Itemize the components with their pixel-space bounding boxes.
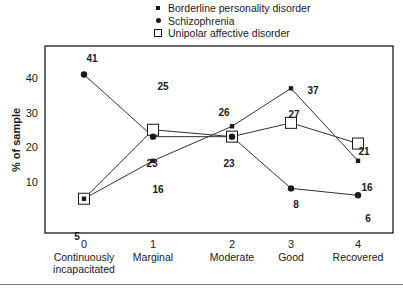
filled-circle-marker-icon: [150, 133, 156, 139]
filled-square-marker-icon: [356, 159, 360, 163]
x-category-label: incapacitated: [53, 263, 115, 275]
data-label: 5: [74, 231, 80, 242]
x-category-label: Good: [278, 251, 304, 263]
y-tick-label: 40: [26, 72, 38, 84]
x-category-label: Recovered: [333, 251, 384, 263]
y-tick-label: 10: [26, 176, 38, 188]
data-label: 41: [86, 53, 98, 64]
filled-circle-marker-icon: [229, 133, 235, 139]
x-tick-label: 3: [288, 238, 294, 250]
data-label: 6: [365, 213, 371, 224]
filled-square-marker-icon: [289, 86, 293, 90]
x-category-label: Moderate: [210, 251, 255, 263]
x-tick-label: 2: [229, 238, 235, 250]
data-label: 16: [361, 182, 373, 193]
filled-square-marker-icon: [230, 124, 234, 128]
filled-circle-marker-icon: [355, 192, 361, 198]
data-label: 25: [157, 81, 169, 92]
x-category-label: Marginal: [133, 251, 173, 263]
x-tick-label: 1: [150, 238, 156, 250]
x-tick-label: 0: [81, 238, 87, 250]
filled-square-marker-icon: [82, 197, 86, 201]
data-label: 8: [293, 199, 299, 210]
x-tick-label: 4: [355, 238, 361, 250]
plot-frame: [45, 46, 393, 233]
y-tick-label: 20: [26, 141, 38, 153]
data-label: 26: [218, 107, 230, 118]
data-label: 37: [307, 85, 319, 96]
data-label: 27: [288, 109, 300, 120]
bottom-divider: [0, 284, 403, 285]
y-tick-label: 30: [26, 107, 38, 119]
data-label: 23: [223, 158, 235, 169]
filled-circle-marker-icon: [81, 71, 87, 77]
line-chart: 10203040% of sample0Continuouslyincapaci…: [0, 0, 403, 289]
filled-circle-marker-icon: [288, 185, 294, 191]
series-line: [84, 88, 358, 198]
data-label: 23: [146, 158, 158, 169]
y-axis-label: % of sample: [10, 108, 22, 172]
series-line: [84, 123, 358, 199]
x-category-label: Continuously: [54, 251, 115, 263]
data-label: 21: [358, 146, 370, 157]
data-label: 16: [152, 184, 164, 195]
